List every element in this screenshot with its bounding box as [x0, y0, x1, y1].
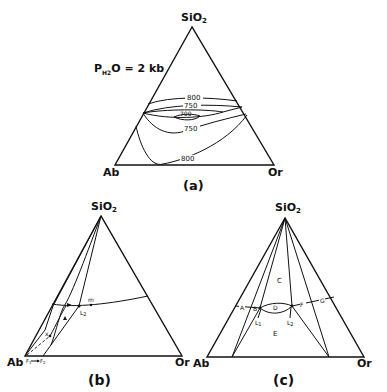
- point-G: G: [320, 297, 325, 304]
- ab-label-a: Ab: [103, 166, 120, 179]
- phase-diagrams: 800 750 700 750 800 SiO2 Ab Or (a) PH2O …: [0, 0, 387, 392]
- or-label-a: Or: [268, 166, 283, 179]
- isotherm-join: [223, 107, 242, 112]
- tie-line-L2: [285, 218, 292, 306]
- apex-label-a: SiO2: [181, 11, 207, 25]
- diagram-c: A B D F G C E L1 L2 SiO2 Ab Or (c): [193, 201, 372, 388]
- isotherm-label-750-lower: 750: [184, 125, 197, 133]
- region-C: C: [277, 277, 282, 285]
- diagram-a: 800 750 700 750 800 SiO2 Ab Or (a) PH2O …: [94, 11, 283, 193]
- ab-label-b: Ab: [7, 356, 24, 369]
- isotherm-label-800-lower: 800: [181, 155, 194, 163]
- caption-a: (a): [183, 178, 204, 193]
- or-label-c: Or: [357, 357, 372, 370]
- pressure-label: PH2O = 2 kb: [94, 62, 164, 76]
- tie-line-2: [51, 216, 101, 345]
- crystallization-path: [50, 306, 66, 336]
- tie-line-right-outer: [285, 218, 329, 357]
- point-D: D: [273, 304, 278, 311]
- point-L2-b: L2: [80, 309, 87, 317]
- L2-pointer: [290, 307, 291, 318]
- point-B: B: [253, 305, 257, 312]
- ternary-triangle-c: [207, 218, 364, 357]
- isotherm-label-800-upper: 800: [187, 94, 200, 102]
- tie-line-L1: [260, 218, 285, 308]
- apex-label-c: SiO2: [275, 201, 301, 215]
- isotherm-label-700: 700: [180, 110, 192, 117]
- point-L2-c: L2: [287, 319, 294, 327]
- caption-c: (c): [273, 372, 294, 388]
- ab-label-c: Ab: [193, 357, 210, 370]
- cotectic-curve: [52, 296, 148, 306]
- cotectic-right: [292, 297, 334, 306]
- boundary-left-lower: [232, 308, 260, 357]
- diagram-b: m L2 x F1 F2 SiO2 Ab Or (b): [7, 200, 190, 388]
- region-E: E: [273, 330, 277, 338]
- isotherm-label-750-upper: 750: [184, 102, 197, 110]
- or-label-b: Or: [175, 356, 190, 369]
- point-F: F: [300, 301, 304, 308]
- boundary-right-lower: [292, 306, 329, 357]
- point-L1: L1: [255, 319, 262, 327]
- apex-label-b: SiO2: [91, 200, 117, 214]
- point-m: m: [88, 296, 94, 303]
- point-x: x: [45, 330, 49, 337]
- tie-line-3: [43, 216, 101, 356]
- caption-b: (b): [88, 372, 111, 388]
- point-F2: F2: [40, 358, 46, 365]
